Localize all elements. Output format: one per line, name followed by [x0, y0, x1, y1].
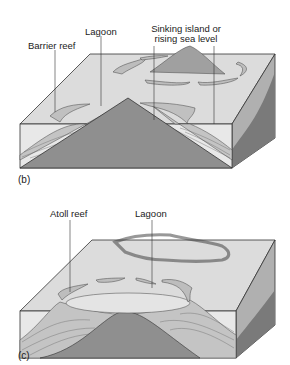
- label-barrier-reef: Barrier reef: [28, 41, 76, 51]
- label-sinking-island: Sinking island or rising sea level: [146, 24, 226, 44]
- panel-b-barrier-reef: Barrier reef Lagoon Sinking island or ri…: [0, 0, 290, 180]
- label-lagoon-b: Lagoon: [85, 27, 117, 37]
- label-atoll-reef: Atoll reef: [50, 209, 88, 219]
- caption-c: (c): [18, 350, 30, 361]
- label-sinking-line2: rising sea level: [146, 34, 226, 44]
- panel-c-atoll: Atoll reef Lagoon (c): [0, 190, 290, 365]
- label-lagoon-c: Lagoon: [135, 209, 167, 219]
- barrier-reef-block-diagram: [0, 0, 290, 180]
- caption-b: (b): [18, 174, 30, 185]
